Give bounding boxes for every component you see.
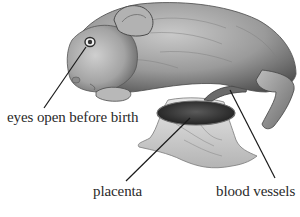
fetus-eye: [85, 38, 95, 47]
placenta-shape: [157, 101, 235, 125]
ear: [114, 6, 153, 36]
label-eyes-open-before-birth: eyes open before birth: [7, 110, 139, 125]
fetus-front-paw: [96, 87, 131, 101]
fetus-hind-leg: [256, 70, 294, 129]
label-blood-vessels: blood vessels: [216, 184, 295, 199]
label-placenta: placenta: [93, 184, 142, 199]
